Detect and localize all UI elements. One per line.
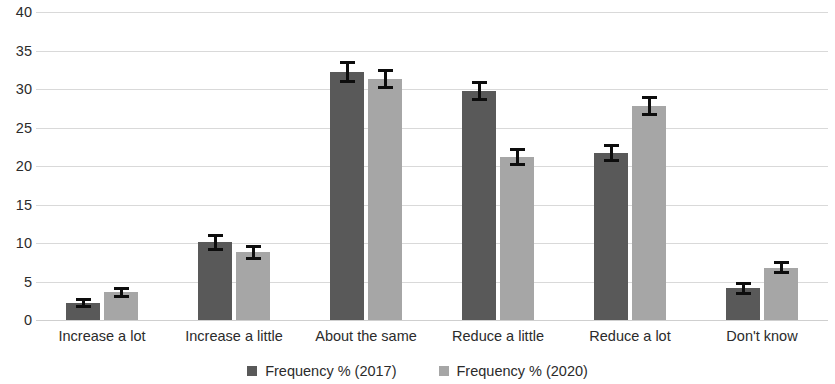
- y-axis-tick-label: 15: [2, 197, 32, 212]
- x-axis-tick-label: Increase a little: [185, 326, 283, 346]
- y-axis-tick-label: 5: [2, 274, 32, 289]
- gridline: [36, 166, 828, 167]
- x-axis-tick-label: Don't know: [726, 326, 797, 346]
- y-axis-tick-label: 35: [2, 43, 32, 58]
- error-bar-cap-top: [472, 81, 487, 84]
- gridline: [36, 51, 828, 52]
- gridline: [36, 89, 828, 90]
- bar: [726, 288, 760, 320]
- bar: [462, 91, 496, 320]
- error-bar-cap-top: [114, 287, 129, 290]
- chart-legend: Frequency % (2017)Frequency % (2020): [0, 360, 835, 382]
- gridline: [36, 128, 828, 129]
- y-axis: 0510152025303540: [0, 12, 32, 320]
- legend-item: Frequency % (2020): [439, 364, 588, 379]
- legend-swatch-icon: [439, 366, 449, 376]
- gridline: [36, 205, 828, 206]
- error-bar-cap-top: [340, 61, 355, 64]
- error-bar-cap-top: [774, 261, 789, 264]
- x-axis: Increase a lotIncrease a littleAbout the…: [36, 326, 828, 348]
- legend-item: Frequency % (2017): [247, 364, 396, 379]
- x-axis-tick-label: Reduce a lot: [589, 326, 670, 346]
- error-bar-cap-top: [76, 298, 91, 301]
- x-axis-tick-label: About the same: [315, 326, 417, 346]
- y-axis-tick-label: 25: [2, 120, 32, 135]
- y-axis-tick-label: 30: [2, 82, 32, 97]
- bar: [104, 292, 138, 320]
- legend-swatch-icon: [247, 366, 257, 376]
- bar: [368, 79, 402, 320]
- gridline: [36, 282, 828, 283]
- error-bar-cap-top: [378, 69, 393, 72]
- bar: [198, 242, 232, 320]
- x-axis-tick-label: Increase a lot: [58, 326, 145, 346]
- grouped-bar-chart: 0510152025303540 Increase a lotIncrease …: [0, 0, 835, 384]
- error-bar-cap-top: [510, 148, 525, 151]
- bar: [594, 153, 628, 320]
- error-bar-cap-top: [604, 144, 619, 147]
- error-bar-cap-top: [736, 282, 751, 285]
- error-bar-cap-top: [208, 234, 223, 237]
- bar: [330, 72, 364, 320]
- bar: [764, 268, 798, 320]
- y-axis-tick-label: 10: [2, 236, 32, 251]
- y-axis-tick-label: 20: [2, 159, 32, 174]
- gridline: [36, 12, 828, 13]
- error-bar-cap-top: [246, 245, 261, 248]
- bar: [236, 252, 270, 320]
- legend-label: Frequency % (2020): [457, 364, 588, 379]
- gridline: [36, 243, 828, 244]
- y-axis-tick-label: 40: [2, 5, 32, 20]
- bar: [632, 106, 666, 320]
- error-bar-cap-top: [642, 96, 657, 99]
- plot-area: [36, 12, 828, 320]
- bar: [500, 157, 534, 320]
- gridline: [36, 320, 828, 321]
- y-axis-tick-label: 0: [2, 313, 32, 328]
- bar: [66, 303, 100, 320]
- legend-label: Frequency % (2017): [265, 364, 396, 379]
- x-axis-tick-label: Reduce a little: [452, 326, 544, 346]
